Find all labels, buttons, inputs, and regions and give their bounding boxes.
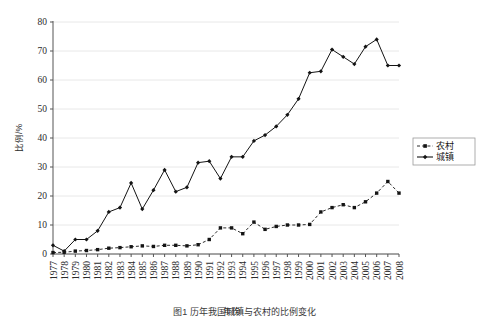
data-point <box>107 247 110 250</box>
x-tick-label: 1989 <box>183 261 193 280</box>
x-tick-label: 2003 <box>339 261 349 280</box>
data-point <box>185 244 188 247</box>
data-point <box>364 200 367 203</box>
data-point <box>252 220 255 223</box>
x-tick-label: 1987 <box>160 261 170 280</box>
data-point <box>152 245 155 248</box>
x-tick-label: 1986 <box>149 261 159 280</box>
data-point <box>275 225 278 228</box>
y-tick-label: 50 <box>38 104 48 114</box>
data-point <box>241 232 244 235</box>
legend-marker-农村 <box>423 144 427 148</box>
x-tick-label: 2008 <box>395 261 405 280</box>
data-point <box>196 161 200 165</box>
data-point <box>386 63 390 67</box>
data-point <box>330 206 333 209</box>
x-tick-label: 1995 <box>250 261 260 280</box>
data-point <box>319 69 323 73</box>
x-tick-label: 2004 <box>350 261 360 280</box>
data-point <box>319 210 322 213</box>
x-tick-label: 1999 <box>294 261 304 280</box>
x-tick-label: 1992 <box>216 261 226 280</box>
data-point <box>118 206 122 210</box>
data-point <box>107 210 111 214</box>
x-tick-label: 1996 <box>261 261 271 280</box>
y-tick-label: 60 <box>38 75 48 85</box>
x-tick-label: 1988 <box>171 261 181 280</box>
data-point <box>85 249 88 252</box>
data-point <box>185 185 189 189</box>
figure-caption: 图1 历年我国城镇与农村的比例变化 <box>0 305 489 318</box>
x-tick-label: 1985 <box>138 261 148 280</box>
data-point <box>151 188 155 192</box>
data-point <box>129 181 133 185</box>
data-point <box>219 226 222 229</box>
x-tick-label: 2006 <box>372 261 382 280</box>
data-point <box>208 238 211 241</box>
x-tick-label: 1983 <box>116 261 126 280</box>
data-point <box>375 191 378 194</box>
data-point <box>74 249 77 252</box>
legend-label-农村: 农村 <box>436 140 454 151</box>
x-tick-label: 1997 <box>272 261 282 280</box>
data-point <box>386 180 389 183</box>
line-chart-svg: 0102030405060708019771978197919801981198… <box>0 0 489 323</box>
data-point <box>141 244 144 247</box>
x-tick-label: 2000 <box>305 261 315 280</box>
x-tick-label: 1990 <box>194 261 204 280</box>
x-tick-label: 1984 <box>127 261 137 280</box>
data-point <box>174 244 177 247</box>
y-axis-title: 比例/% <box>14 124 24 152</box>
x-tick-label: 1982 <box>104 261 114 280</box>
x-tick-label: 1978 <box>60 261 70 280</box>
data-point <box>51 251 54 254</box>
y-tick-label: 80 <box>38 17 48 27</box>
y-tick-label: 10 <box>38 220 48 230</box>
data-point <box>51 243 55 247</box>
x-tick-label: 1994 <box>238 261 248 280</box>
data-point <box>118 246 121 249</box>
x-tick-label: 2001 <box>316 261 326 280</box>
data-point <box>174 190 178 194</box>
y-tick-label: 0 <box>42 249 47 259</box>
series-line-城镇 <box>53 39 399 251</box>
data-point <box>96 248 99 251</box>
data-point <box>308 223 311 226</box>
x-tick-label: 1980 <box>82 261 92 280</box>
y-tick-label: 70 <box>38 46 48 56</box>
data-point <box>163 168 167 172</box>
y-tick-label: 30 <box>38 162 48 172</box>
data-point <box>263 228 266 231</box>
data-point <box>196 243 199 246</box>
x-tick-label: 1991 <box>205 261 215 280</box>
data-point <box>140 207 144 211</box>
x-tick-label: 2005 <box>361 261 371 280</box>
x-tick-label: 1981 <box>93 261 103 280</box>
data-point <box>286 223 289 226</box>
data-point <box>297 223 300 226</box>
data-point <box>129 245 132 248</box>
chart-figure: 0102030405060708019771978197919801981198… <box>0 0 489 323</box>
data-point <box>397 63 401 67</box>
x-tick-label: 1998 <box>283 261 293 280</box>
series-line-农村 <box>53 182 399 253</box>
x-tick-label: 1979 <box>71 261 81 280</box>
x-tick-label: 1993 <box>227 261 237 280</box>
data-point <box>397 191 400 194</box>
y-tick-label: 20 <box>38 191 48 201</box>
x-tick-label: 2002 <box>328 261 338 280</box>
y-tick-label: 40 <box>38 133 48 143</box>
data-point <box>230 226 233 229</box>
data-point <box>229 155 233 159</box>
data-point <box>308 71 312 75</box>
data-point <box>353 206 356 209</box>
x-tick-label: 1977 <box>49 261 59 280</box>
legend-label-城镇: 城镇 <box>436 151 454 162</box>
x-tick-label: 2007 <box>383 261 393 280</box>
data-point <box>341 203 344 206</box>
data-point <box>163 244 166 247</box>
